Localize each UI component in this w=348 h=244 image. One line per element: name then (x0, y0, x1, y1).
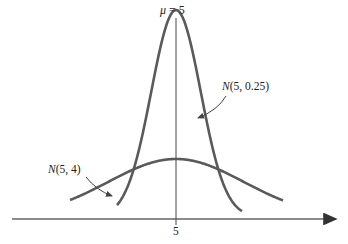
wide-curve-label: N(5, 4) (47, 163, 81, 176)
chart-canvas: μ = 5 N(5, 0.25) N(5, 4) 5 (0, 0, 348, 244)
mean-label: μ = 5 (159, 3, 185, 17)
normal-distributions-figure: μ = 5 N(5, 0.25) N(5, 4) 5 (0, 0, 348, 244)
narrow-curve-label: N(5, 0.25) (221, 80, 269, 93)
curve-n-5-0.25 (117, 10, 242, 211)
x-tick-5: 5 (173, 225, 179, 237)
